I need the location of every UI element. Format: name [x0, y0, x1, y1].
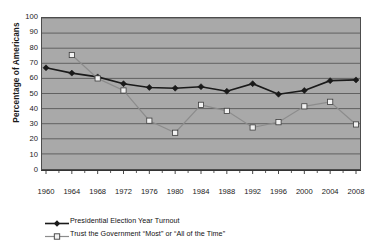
- x-tick-label: 2008: [341, 188, 370, 196]
- x-axis-tick-labels: 1960196419681972197619801984198819921996…: [41, 188, 361, 200]
- legend-label: Trust the Government “Most” or “All of t…: [70, 229, 225, 238]
- turnout-trust-line-chart: Percentage of Americans 1009080706050403…: [0, 0, 370, 249]
- data-point: [146, 84, 152, 90]
- filled-diamond-icon: [44, 215, 70, 226]
- data-point: [43, 65, 49, 71]
- data-point: [121, 81, 127, 87]
- y-tick-label: 0: [12, 166, 38, 174]
- y-tick-label: 50: [12, 90, 38, 98]
- data-point: [198, 102, 203, 107]
- y-tick-label: 10: [12, 151, 38, 159]
- data-point: [353, 77, 359, 83]
- data-point: [69, 70, 75, 76]
- data-point: [224, 108, 229, 113]
- data-point: [250, 81, 256, 87]
- data-point: [302, 104, 307, 109]
- y-tick-label: 80: [12, 44, 38, 52]
- y-tick-label: 30: [12, 120, 38, 128]
- data-point: [95, 76, 100, 81]
- data-point: [198, 84, 204, 90]
- chart-legend: Presidential Election Year TurnoutTrust …: [44, 214, 344, 240]
- y-tick-label: 70: [12, 59, 38, 67]
- data-point: [147, 118, 152, 123]
- data-point: [353, 122, 358, 127]
- data-point: [173, 130, 178, 135]
- series-line-0: [46, 68, 356, 94]
- data-point: [69, 52, 74, 57]
- y-tick-label: 60: [12, 74, 38, 82]
- y-tick-label: 90: [12, 28, 38, 36]
- x-axis-ticks: [41, 170, 361, 176]
- legend-label: Presidential Election Year Turnout: [70, 216, 180, 225]
- data-point: [172, 85, 178, 91]
- y-tick-label: 20: [12, 135, 38, 143]
- y-axis-tick-labels: 1009080706050403020100: [10, 0, 38, 249]
- plot-area: [41, 17, 361, 170]
- legend-item[interactable]: Trust the Government “Most” or “All of t…: [44, 227, 344, 239]
- plot-svg: [42, 18, 360, 169]
- legend-item[interactable]: Presidential Election Year Turnout: [44, 214, 344, 226]
- data-point: [276, 120, 281, 125]
- data-point: [250, 125, 255, 130]
- open-square-icon: [44, 228, 70, 239]
- data-point: [121, 88, 126, 93]
- y-tick-label: 40: [12, 105, 38, 113]
- y-tick-label: 100: [12, 13, 38, 21]
- data-point: [301, 87, 307, 93]
- data-point: [276, 91, 282, 97]
- data-point: [328, 99, 333, 104]
